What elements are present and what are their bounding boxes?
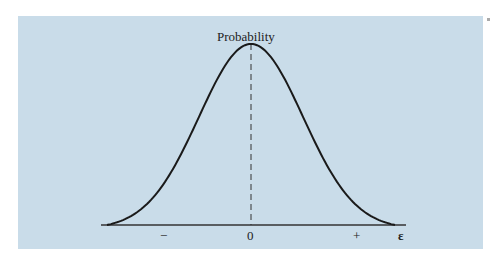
y-axis-label: Probability <box>217 30 275 43</box>
speck <box>487 18 490 21</box>
tick-zero: 0 <box>247 229 254 242</box>
x-axis-label-epsilon: ε <box>398 229 404 242</box>
tick-plus: + <box>353 229 360 242</box>
tick-minus: − <box>160 229 167 242</box>
